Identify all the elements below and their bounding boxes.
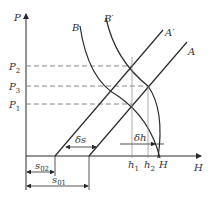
p2-label: P2 — [8, 61, 20, 75]
curve-b-prime-label: B′ — [103, 13, 114, 24]
line-a-prime-label: A′ — [164, 27, 175, 38]
delta-h-label: δh — [134, 132, 146, 143]
line-a-prime — [55, 30, 163, 156]
h-point-label: H — [158, 159, 168, 170]
s02-label: s02 — [35, 160, 49, 173]
x-axis-label: H — [193, 162, 203, 173]
pressure-head-diagram: P H P2 P3 P1 A′ A B B′ h1 h2 H δh δs s02… — [0, 0, 215, 204]
h2-label: h2 — [144, 159, 155, 173]
curve-b-label: B — [71, 22, 79, 33]
s01-label: s01 — [52, 174, 66, 187]
y-axis-label: P — [13, 12, 21, 23]
p3-label: P3 — [8, 81, 20, 95]
delta-s-label: δs — [75, 134, 86, 145]
p1-label: P1 — [8, 99, 20, 113]
line-a-label: A — [187, 46, 195, 57]
h1-label: h1 — [128, 159, 139, 173]
